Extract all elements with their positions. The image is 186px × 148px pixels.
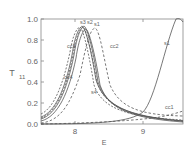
y-tick-label: 0.2 — [27, 99, 39, 108]
y-tick-label: 0.8 — [27, 36, 39, 45]
y-tick-label: 0.6 — [27, 57, 39, 66]
label-s1-top: s1 — [94, 21, 100, 27]
transmission-chart: 0.0 0.2 0.4 0.6 0.8 1.0 8 9 E T 11 s3 s2 — [0, 0, 186, 148]
label-s4: s4 — [91, 89, 97, 95]
x-axis-label: E — [102, 139, 107, 146]
label-cc4: cc4 — [64, 74, 73, 80]
svg-text:11: 11 — [19, 74, 26, 80]
curve-cc4 — [41, 27, 183, 121]
label-cc2: cc2 — [110, 43, 119, 49]
curve-s1 — [41, 19, 183, 124]
y-tick-label: 1.0 — [27, 15, 39, 24]
x-tick-label: 9 — [141, 127, 146, 136]
curve-cc1 — [41, 111, 183, 124]
y-tick-label: 0.4 — [27, 78, 39, 87]
y-axis-label: T 11 — [9, 68, 26, 80]
curves — [41, 19, 183, 124]
y-tick-label: 0.0 — [27, 120, 39, 129]
label-cc1: cc1 — [165, 104, 174, 110]
label-s2: s2 — [87, 19, 93, 25]
label-s3: s3 — [80, 19, 86, 25]
label-s1-right: s1 — [164, 40, 170, 46]
curve-cc3 — [41, 27, 183, 120]
label-cc3: cc3 — [67, 43, 76, 49]
plot-frame — [41, 19, 183, 124]
svg-text:T: T — [9, 68, 15, 78]
x-tick-label: 8 — [73, 127, 78, 136]
